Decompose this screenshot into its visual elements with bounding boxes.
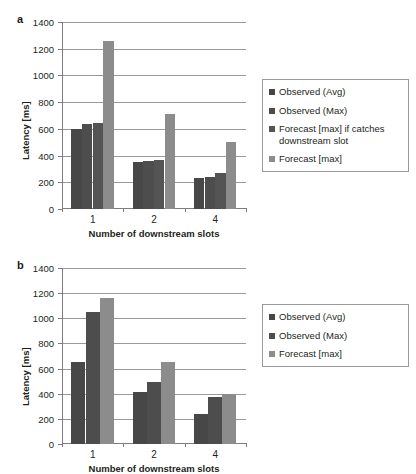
legend-item-a-3[interactable]: Forecast [max] if catches downstream slo… (269, 123, 401, 146)
legend-swatch-icon (269, 351, 275, 357)
b-x-tick-mark (123, 443, 124, 447)
legend-item-b-1[interactable]: Observed (Avg) (269, 311, 401, 323)
b-x-tick-mark (62, 443, 63, 447)
panel-b-plot-area: 0200400600800100012001400124 (62, 268, 246, 444)
b-y-tick-label: 1400 (14, 263, 54, 274)
a-y-tick-label: 1000 (14, 70, 54, 81)
a-y-tick-label: 0 (14, 204, 54, 215)
bar-b-cat1-series2 (86, 312, 100, 444)
bar-a-cat1-series1 (71, 129, 81, 209)
legend-swatch-icon (269, 126, 275, 132)
b-x-tick-label: 4 (185, 449, 246, 460)
bar-a-cat2-series2 (143, 161, 153, 209)
bar-a-cat4-series1 (194, 178, 204, 209)
bar-a-cat2-series4 (165, 114, 175, 209)
panel-b-x-axis-label: Number of downstream slots (62, 463, 246, 474)
bar-a-cat2-series3 (154, 160, 164, 209)
b-y-tick-label: 400 (14, 388, 54, 399)
bar-b-cat2-series2 (147, 382, 161, 444)
legend-swatch-icon (269, 314, 275, 320)
b-gridline (62, 293, 246, 294)
panel-b: b Latency [ms] 0200400600800100012001400… (0, 232, 416, 464)
a-gridline (62, 22, 246, 23)
bar-b-cat4-series3 (222, 394, 236, 444)
a-y-tick-label: 200 (14, 177, 54, 188)
bar-a-cat1-series3 (93, 123, 103, 209)
panel-a-plot-area: 0200400600800100012001400124 (62, 22, 246, 209)
legend-swatch-icon (269, 156, 275, 162)
b-x-tick-label: 1 (62, 449, 123, 460)
panel-a-legend: Observed (Avg)Observed (Max)Forecast [ma… (262, 79, 409, 172)
legend-label: Observed (Max) (279, 330, 347, 342)
legend-item-b-2[interactable]: Observed (Max) (269, 330, 401, 342)
a-x-tick-mark (185, 208, 186, 212)
b-y-tick-label: 1200 (14, 288, 54, 299)
a-y-tick-label: 600 (14, 123, 54, 134)
a-x-tick-label: 4 (185, 214, 246, 225)
b-x-tick-label: 2 (123, 449, 184, 460)
b-y-tick-label: 1000 (14, 313, 54, 324)
a-x-tick-mark (246, 208, 247, 212)
legend-label: Observed (Max) (279, 105, 347, 117)
bar-a-cat4-series4 (226, 142, 236, 209)
b-y-tick-label: 800 (14, 338, 54, 349)
bar-a-cat2-series1 (133, 162, 143, 209)
legend-item-a-2[interactable]: Observed (Max) (269, 105, 401, 117)
b-y-tick-label: 0 (14, 439, 54, 450)
b-y-axis-line (62, 268, 63, 444)
panel-b-legend: Observed (Avg)Observed (Max)Forecast [ma… (262, 304, 409, 367)
bar-b-cat1-series1 (71, 362, 85, 444)
bar-b-cat2-series3 (161, 362, 175, 444)
a-x-tick-label: 1 (62, 214, 123, 225)
legend-item-a-1[interactable]: Observed (Avg) (269, 86, 401, 98)
b-y-tick-label: 200 (14, 413, 54, 424)
a-y-tick-label: 800 (14, 97, 54, 108)
legend-label: Forecast [max] (279, 153, 342, 165)
a-y-tick-label: 1400 (14, 17, 54, 28)
a-x-tick-label: 2 (123, 214, 184, 225)
legend-label: Forecast [max] if catches downstream slo… (279, 123, 401, 146)
a-y-tick-label: 400 (14, 150, 54, 161)
b-y-tick-label: 600 (14, 363, 54, 374)
legend-item-a-4[interactable]: Forecast [max] (269, 153, 401, 165)
bar-a-cat4-series2 (205, 177, 215, 209)
legend-swatch-icon (269, 89, 275, 95)
b-gridline (62, 268, 246, 269)
legend-swatch-icon (269, 108, 275, 114)
a-y-axis-line (62, 22, 63, 209)
legend-label: Observed (Avg) (279, 86, 345, 98)
b-x-tick-mark (246, 443, 247, 447)
a-y-tick-label: 1200 (14, 43, 54, 54)
b-x-tick-mark (185, 443, 186, 447)
bar-b-cat4-series2 (208, 397, 222, 444)
a-x-tick-mark (123, 208, 124, 212)
legend-swatch-icon (269, 333, 275, 339)
legend-label: Observed (Avg) (279, 311, 345, 323)
bar-b-cat2-series1 (133, 392, 147, 444)
bar-b-cat1-series3 (100, 298, 114, 444)
bar-a-cat1-series2 (82, 124, 92, 209)
panel-a: a Latency [ms] 0200400600800100012001400… (0, 0, 416, 232)
a-gridline (62, 49, 246, 50)
bar-a-cat1-series4 (103, 41, 113, 209)
a-gridline (62, 102, 246, 103)
bar-b-cat4-series1 (194, 414, 208, 444)
legend-label: Forecast [max] (279, 348, 342, 360)
legend-item-b-3[interactable]: Forecast [max] (269, 348, 401, 360)
bar-a-cat4-series3 (215, 173, 225, 209)
a-gridline (62, 75, 246, 76)
a-x-tick-mark (62, 208, 63, 212)
